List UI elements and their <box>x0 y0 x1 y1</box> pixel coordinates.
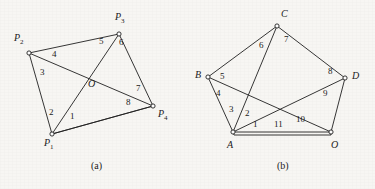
edge-label-a-5: 5 <box>99 37 104 46</box>
edge-b-10-d-o <box>331 78 345 132</box>
vertex-a-p1 <box>50 132 54 136</box>
vertex-label-b-d: D <box>352 71 359 81</box>
edge-label-a-3: 3 <box>40 68 45 77</box>
edge-label-b-9: 9 <box>323 89 328 98</box>
edge-label-b-5: 5 <box>220 72 225 81</box>
edge-label-a-4: 4 <box>52 50 57 59</box>
edge-b-9-d-a <box>233 78 345 132</box>
edge-b-4-b-o <box>208 77 331 132</box>
edge-label-b-3: 3 <box>229 105 234 114</box>
edge-label-b-7: 7 <box>284 35 289 44</box>
caption-panel-b: (b) <box>277 161 289 171</box>
vertex-label-b-c: C <box>281 9 288 19</box>
vertex-b-o <box>329 130 333 134</box>
edge-label-b-2: 2 <box>245 109 250 118</box>
vertex-label-b-a: A <box>227 140 233 150</box>
edge-label-b-11: 11 <box>274 120 283 129</box>
vertex-label-a-o: O <box>88 79 95 89</box>
edge-label-b-10: 10 <box>296 115 305 124</box>
vertex-label-a-p3: P3 <box>115 12 125 25</box>
vertex-label-b-b: B <box>195 70 201 80</box>
caption-panel-a: (a) <box>91 161 102 171</box>
edge-label-a-7: 7 <box>136 84 141 93</box>
vertex-a-p3 <box>117 32 121 36</box>
figure-root: P1 P2 P3 P4 O 1 2 3 4 5 6 7 8 A B C D O … <box>0 0 375 189</box>
edge-label-a-1: 1 <box>70 112 75 121</box>
vertex-b-c <box>275 24 279 28</box>
edge-label-b-4: 4 <box>216 89 221 98</box>
vertex-label-a-p4: P4 <box>158 109 168 122</box>
edge-label-a-6: 6 <box>119 38 124 47</box>
edge-label-a-8: 8 <box>126 98 131 107</box>
figure-svg <box>0 0 375 189</box>
edge-a-6-p3-p1 <box>52 34 119 134</box>
vertex-label-a-p2: P2 <box>14 33 24 46</box>
vertex-a-p2 <box>27 51 31 55</box>
vertex-label-a-p1: P1 <box>44 138 54 151</box>
edge-label-b-1: 1 <box>253 120 258 129</box>
vertex-b-b <box>206 75 210 79</box>
edge-label-a-2: 2 <box>49 108 54 117</box>
vertex-b-a <box>231 130 235 134</box>
edge-label-b-6: 6 <box>259 41 264 50</box>
vertex-b-d <box>343 76 347 80</box>
edge-a-3-p2-p1 <box>29 53 52 134</box>
panel-b-vertices <box>206 24 347 134</box>
edge-label-b-8: 8 <box>328 67 333 76</box>
vertex-a-p4 <box>151 104 155 108</box>
vertex-label-b-o: O <box>331 140 338 150</box>
edge-a-7-p3-p4 <box>119 34 153 106</box>
edge-a-4-p2-p3 <box>29 34 119 53</box>
edge-a-8-p4-p1 <box>52 106 153 134</box>
